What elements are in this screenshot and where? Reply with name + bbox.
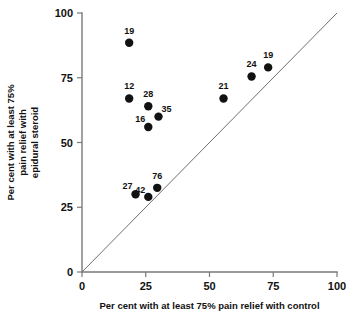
x-tick-label: 0 — [79, 280, 85, 292]
y-axis-title-line: epidural steroid — [29, 107, 40, 178]
x-tick-label: 25 — [140, 280, 152, 292]
data-point-label: 16 — [135, 114, 145, 124]
y-tick-label: 100 — [55, 7, 73, 19]
data-point-label: 27 — [123, 181, 133, 191]
x-tick-label: 50 — [203, 280, 215, 292]
data-point-marker — [153, 184, 161, 192]
plot-canvas: 1912283516212419274276 02550751000255075… — [0, 0, 354, 319]
data-point-label: 42 — [135, 185, 145, 195]
x-tick-label: 75 — [267, 280, 279, 292]
data-point-marker — [264, 63, 272, 71]
data-point-marker — [219, 94, 227, 102]
data-point-marker — [144, 102, 152, 110]
data-point-label: 28 — [143, 89, 153, 99]
data-point-label: 19 — [263, 50, 273, 60]
tick-labels: 02550751000255075100 — [55, 7, 347, 292]
data-point-marker — [247, 72, 255, 80]
y-axis-title-line: pain relief with — [17, 109, 28, 176]
data-point-label: 12 — [124, 81, 134, 91]
y-tick-label: 75 — [61, 72, 73, 84]
scatter-plot-figure: 1912283516212419274276 02550751000255075… — [0, 0, 354, 319]
x-tick-label: 100 — [328, 280, 346, 292]
data-point-label: 35 — [161, 104, 171, 114]
line-of-equality — [82, 13, 337, 272]
data-point-label: 76 — [152, 171, 162, 181]
y-tick-label: 25 — [61, 201, 73, 213]
data-point-label: 21 — [219, 81, 229, 91]
y-tick-label: 0 — [67, 266, 73, 278]
data-points: 1912283516212419274276 — [123, 26, 274, 201]
data-point-label: 24 — [247, 59, 257, 69]
y-tick-label: 50 — [61, 137, 73, 149]
x-axis-title: Per cent with at least 75% pain relief w… — [99, 300, 319, 311]
data-point-marker — [144, 123, 152, 131]
data-point-marker — [125, 94, 133, 102]
line-of-equality — [82, 13, 337, 272]
data-point-label: 19 — [124, 26, 134, 36]
data-point-marker — [125, 39, 133, 47]
data-point-marker — [144, 193, 152, 201]
data-point-marker — [154, 112, 162, 120]
y-axis-title-line: Per cent with at least 75% — [5, 84, 16, 201]
